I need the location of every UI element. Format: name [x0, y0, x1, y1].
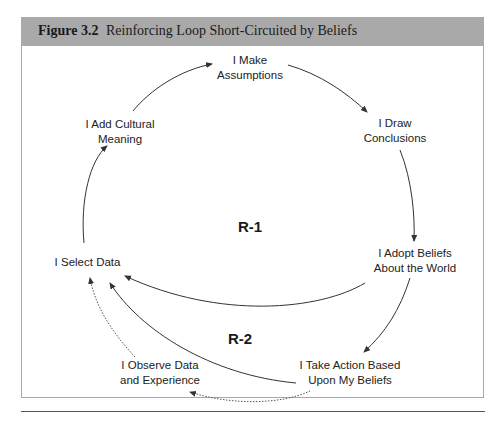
node-text: Meaning	[70, 132, 170, 147]
node-text: Assumptions	[200, 68, 300, 83]
arrow-action-to-observe-dotted	[190, 391, 310, 402]
node-draw-conclusions: I Draw Conclusions	[345, 116, 445, 146]
arrow-conclusions-to-beliefs	[400, 150, 414, 241]
bottom-rule	[21, 411, 485, 412]
arrow-beliefs-to-action	[364, 278, 410, 352]
node-text: I Select Data	[40, 255, 135, 270]
node-observe-data: I Observe Data and Experience	[105, 358, 215, 388]
arrow-beliefs-to-select-r1	[125, 276, 365, 306]
arrow-select-to-meaning	[83, 146, 107, 243]
node-text: I Adopt Beliefs	[360, 246, 470, 261]
loop-label-r1: R-1	[238, 218, 262, 235]
node-text: I Observe Data	[105, 358, 215, 373]
node-take-action: I Take Action Based Upon My Beliefs	[280, 358, 420, 388]
arrow-observe-to-select-dotted	[90, 278, 135, 357]
node-make-assumptions: I Make Assumptions	[200, 53, 300, 83]
node-text: Conclusions	[345, 131, 445, 146]
node-text: Upon My Beliefs	[280, 373, 420, 388]
node-text: About the World	[360, 261, 470, 276]
node-text: I Take Action Based	[280, 358, 420, 373]
node-text: I Add Cultural	[70, 117, 170, 132]
node-text: I Draw	[345, 116, 445, 131]
node-text: I Make	[200, 53, 300, 68]
node-select-data: I Select Data	[40, 255, 135, 270]
node-text: and Experience	[105, 373, 215, 388]
node-add-meaning: I Add Cultural Meaning	[70, 117, 170, 147]
loop-label-r2: R-2	[228, 330, 252, 347]
node-adopt-beliefs: I Adopt Beliefs About the World	[360, 246, 470, 276]
